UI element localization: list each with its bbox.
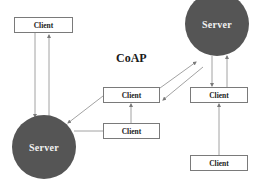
- client-middle-upper: Client: [103, 87, 160, 103]
- coap-diagram: Client CoAP Server Server Client Client …: [0, 0, 262, 185]
- diagram-title: CoAP: [116, 51, 147, 66]
- server-left: Server: [12, 115, 76, 179]
- client-label: Client: [209, 159, 229, 168]
- client-label: Client: [209, 91, 229, 100]
- client-label: Client: [122, 91, 142, 100]
- client-label: Client: [34, 21, 54, 30]
- client-right: Client: [190, 87, 248, 103]
- arrow-client-to-server-right: [160, 62, 196, 88]
- client-top-left: Client: [14, 17, 73, 33]
- server-label: Server: [202, 19, 232, 30]
- server-label: Server: [29, 142, 59, 153]
- client-label: Client: [122, 127, 142, 136]
- client-middle-lower: Client: [103, 123, 160, 139]
- client-bottom-right: Client: [190, 155, 248, 171]
- arrow-client-middle-to-server-left: [68, 96, 103, 123]
